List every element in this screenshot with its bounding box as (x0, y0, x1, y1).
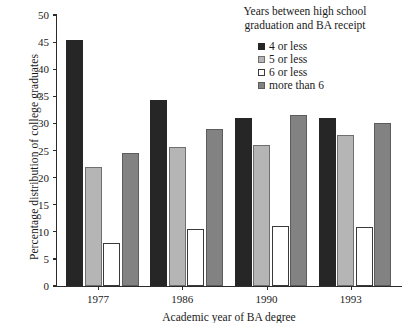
legend-swatch-icon (258, 82, 265, 89)
bar-1977-6-or-less (103, 243, 120, 286)
legend-item-4-or-less: 4 or less (258, 40, 405, 53)
legend-title: Years between high school graduation and… (205, 4, 405, 32)
x-tick-label-1993: 1993 (316, 293, 386, 305)
y-tick-mark (53, 258, 57, 259)
legend-item-5-or-less: 5 or less (258, 53, 405, 66)
legend-label: more than 6 (269, 79, 324, 92)
bar-1986-4-or-less (150, 100, 167, 286)
bar-group-1977: 1977 (66, 15, 140, 286)
y-tick-label: 35 (38, 88, 49, 104)
bar-1990-more-than-6 (290, 115, 307, 286)
legend-label: 4 or less (269, 40, 307, 53)
y-tick-label: 10 (38, 224, 49, 240)
legend-item-more-than-6: more than 6 (258, 79, 405, 92)
x-tick-mark-1977 (98, 286, 99, 290)
legend-item-6-or-less: 6 or less (258, 66, 405, 79)
bar-1993-6-or-less (356, 227, 373, 286)
y-tick-label: 50 (38, 7, 49, 23)
bar-1986-6-or-less (187, 229, 204, 286)
bar-1993-5-or-less (337, 135, 354, 286)
x-tick-label-1990: 1990 (232, 293, 302, 305)
y-tick-label: 0 (44, 278, 50, 294)
bar-1990-5-or-less (253, 145, 270, 286)
y-tick-mark (53, 96, 57, 97)
bar-1990-4-or-less (235, 118, 252, 286)
bar-1993-more-than-6 (374, 123, 391, 286)
y-tick-mark (53, 123, 57, 124)
legend-swatch-icon (258, 43, 265, 50)
x-tick-mark-1990 (267, 286, 268, 290)
y-tick-mark (53, 69, 57, 70)
x-tick-mark-1993 (351, 286, 352, 290)
legend-swatch-icon (258, 69, 265, 76)
bar-1990-6-or-less (272, 226, 289, 286)
legend-label: 5 or less (269, 53, 307, 66)
y-tick-label: 25 (38, 143, 49, 159)
y-tick-label: 40 (38, 61, 49, 77)
y-tick-mark (53, 177, 57, 178)
legend-items: 4 or less5 or less6 or lessmore than 6 (205, 40, 405, 92)
y-tick-label: 15 (38, 197, 49, 213)
y-tick-mark (53, 285, 57, 286)
y-tick-label: 5 (44, 251, 50, 267)
legend-title-line-2: graduation and BA receipt (205, 18, 405, 32)
x-tick-label-1977: 1977 (63, 293, 133, 305)
x-axis-title: Academic year of BA degree (56, 311, 402, 323)
x-tick-mark-1986 (182, 286, 183, 290)
legend-label: 6 or less (269, 66, 307, 79)
bar-1977-more-than-6 (122, 153, 139, 286)
y-tick-mark (53, 204, 57, 205)
y-tick-label: 20 (38, 170, 49, 186)
y-tick-mark (53, 14, 57, 15)
legend-swatch-icon (258, 56, 265, 63)
y-tick-mark (53, 150, 57, 151)
bar-1977-5-or-less (85, 167, 102, 286)
legend: Years between high school graduation and… (205, 4, 405, 92)
bar-1986-5-or-less (169, 147, 186, 286)
y-tick-mark (53, 42, 57, 43)
y-tick-mark (53, 231, 57, 232)
x-tick-label-1986: 1986 (147, 293, 217, 305)
bar-1993-4-or-less (319, 118, 336, 286)
legend-title-line-1: Years between high school (205, 4, 405, 18)
bar-1986-more-than-6 (206, 129, 223, 286)
y-tick-label: 45 (38, 34, 49, 50)
bar-1977-4-or-less (66, 40, 83, 286)
y-tick-label: 30 (38, 115, 49, 131)
